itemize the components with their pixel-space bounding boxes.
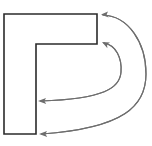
arrow-mid-lower-arc <box>41 43 121 101</box>
figure-canvas <box>0 0 152 146</box>
arrow-mid-lower <box>38 43 121 104</box>
t-shape-polygon <box>4 14 97 134</box>
arrow-inner-top-arc <box>41 43 121 101</box>
diagram-svg <box>0 0 152 146</box>
arrow-outer-top-head-icon <box>101 11 109 17</box>
arrow-inner-top <box>41 42 121 101</box>
